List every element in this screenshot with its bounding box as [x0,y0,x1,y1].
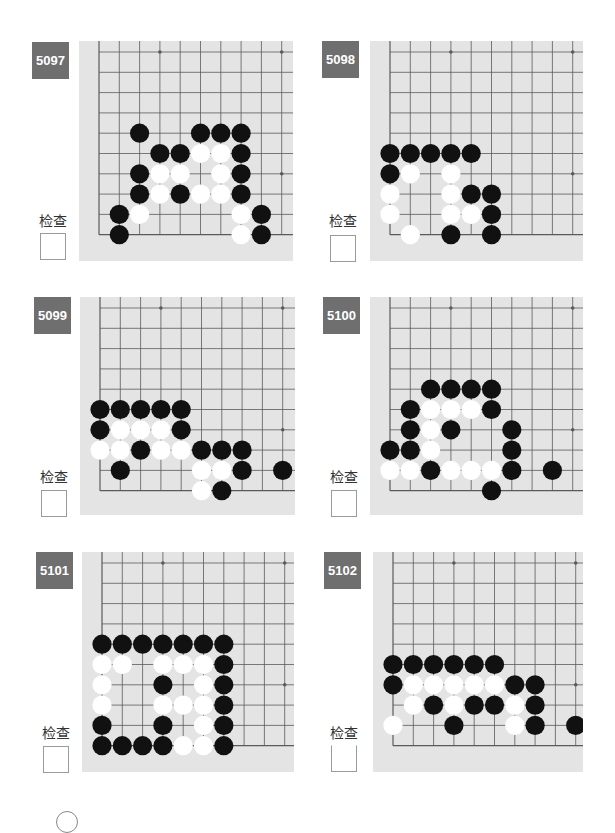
white-stone [150,185,169,204]
black-stone [233,441,252,460]
problem-number-badge: 5098 [322,41,359,78]
black-stone [441,420,460,439]
black-stone [424,696,443,715]
white-stone [153,696,172,715]
black-stone [171,144,190,163]
white-stone [174,736,193,755]
black-stone [383,655,402,674]
white-stone [441,400,460,419]
black-stone [401,400,420,419]
white-stone [212,461,231,480]
check-checkbox[interactable] [43,746,69,773]
black-stone [194,635,213,654]
black-stone [214,736,233,755]
black-stone [212,441,231,460]
black-stone [543,461,562,480]
black-stone [462,185,481,204]
white-stone [174,696,193,715]
white-stone [462,205,481,224]
check-label: 检查 [324,722,364,742]
white-stone [92,655,111,674]
black-stone [526,675,545,694]
black-stone [214,716,233,735]
black-stone [111,400,130,419]
page-number-circle [56,811,78,833]
white-stone [130,205,149,224]
black-stone [110,225,129,244]
black-stone [502,441,521,460]
white-stone [111,420,130,439]
black-stone [505,675,524,694]
black-stone [232,144,251,163]
white-stone [401,225,420,244]
black-stone [130,124,149,143]
black-stone [214,696,233,715]
black-stone [482,185,501,204]
go-board [82,552,294,772]
white-stone [380,185,399,204]
problem-number-badge: 5101 [36,552,73,589]
problem-number-badge: 5100 [323,297,360,334]
white-stone [151,441,170,460]
white-stone [441,205,460,224]
black-stone [232,164,251,183]
white-stone [174,655,193,674]
check-checkbox[interactable] [331,490,357,517]
black-stone [462,380,481,399]
check-checkbox[interactable] [331,745,357,772]
black-stone [133,635,152,654]
go-board [370,297,583,515]
black-stone [171,185,190,204]
black-stone [130,185,149,204]
black-stone [232,185,251,204]
black-stone [421,461,440,480]
problem-number-badge: 5097 [32,42,69,79]
white-stone [444,696,463,715]
black-stone [421,380,440,399]
go-board [370,41,583,261]
black-stone [485,696,504,715]
white-stone [383,716,402,735]
white-stone [232,205,251,224]
black-stone [465,696,484,715]
white-stone [172,441,191,460]
black-stone [502,461,521,480]
black-stone [153,736,172,755]
white-stone [131,420,150,439]
black-stone [113,736,132,755]
black-stone [401,144,420,163]
black-stone [110,205,129,224]
check-checkbox[interactable] [40,233,66,260]
white-stone [192,481,211,500]
white-stone [90,441,109,460]
white-stone [211,144,230,163]
white-stone [171,164,190,183]
black-stone [153,716,172,735]
black-stone [482,380,501,399]
go-board [79,41,293,261]
check-checkbox[interactable] [330,235,356,262]
black-stone [465,655,484,674]
white-stone [380,205,399,224]
black-stone [131,400,150,419]
check-label: 检查 [33,210,73,230]
black-stone [273,461,292,480]
go-board [80,297,295,515]
white-stone [485,675,504,694]
black-stone [380,164,399,183]
black-stone [380,441,399,460]
white-stone [505,696,524,715]
check-checkbox[interactable] [41,490,67,517]
white-stone [211,164,230,183]
black-stone [482,205,501,224]
black-stone [444,716,463,735]
white-stone [380,461,399,480]
problem-number-badge: 5099 [34,297,71,334]
white-stone [151,420,170,439]
white-stone [421,441,440,460]
black-stone [383,675,402,694]
white-stone [441,185,460,204]
white-stone [232,225,251,244]
black-stone [444,655,463,674]
black-stone [90,420,109,439]
